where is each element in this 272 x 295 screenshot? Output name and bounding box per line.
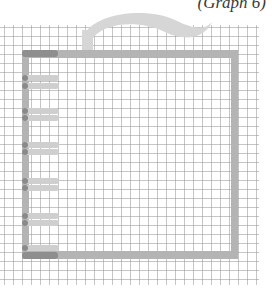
left-tab-marker bbox=[22, 185, 59, 191]
left-tab-marker bbox=[22, 115, 59, 121]
left-tab-marker bbox=[22, 245, 59, 251]
left-tab-marker bbox=[22, 178, 59, 184]
tab-knob-icon bbox=[22, 220, 28, 226]
tab-knob-icon bbox=[22, 83, 28, 89]
left-tab-marker bbox=[22, 220, 59, 226]
tab-knob-icon bbox=[22, 185, 28, 191]
left-tab-marker bbox=[22, 108, 59, 114]
tab-knob-icon bbox=[22, 142, 28, 148]
tab-knob-icon bbox=[22, 108, 28, 114]
frame-right-bar bbox=[231, 50, 238, 258]
left-tab-marker bbox=[22, 149, 59, 155]
left-tab-marker bbox=[22, 83, 59, 89]
tab-knob-icon bbox=[22, 75, 28, 81]
tab-knob-icon bbox=[22, 149, 28, 155]
frame-bottom-accent bbox=[22, 252, 58, 259]
tab-knob-icon bbox=[22, 245, 28, 251]
tab-knob-icon bbox=[22, 115, 28, 121]
left-tab-marker bbox=[22, 75, 59, 81]
tab-knob-icon bbox=[22, 178, 28, 184]
left-tab-marker bbox=[22, 142, 59, 148]
tab-knob-icon bbox=[22, 213, 28, 219]
frame-top-accent bbox=[22, 50, 58, 57]
left-tab-marker bbox=[22, 213, 59, 219]
